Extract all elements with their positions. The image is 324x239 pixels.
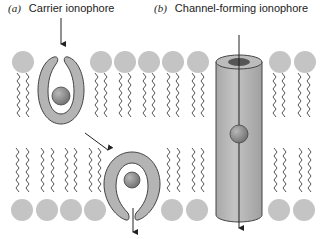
arrow-diagonal-icon (85, 133, 108, 150)
lipid-head (60, 199, 82, 221)
lipid-head (138, 51, 160, 73)
ion (230, 125, 248, 143)
lipid-head (187, 51, 209, 73)
membrane-diagram (0, 0, 324, 239)
lipid-head (84, 199, 106, 221)
lipid-head (114, 51, 136, 73)
ion (52, 87, 70, 105)
carrier-ionophore-lower (104, 152, 160, 232)
bottom-leaflet (11, 148, 315, 221)
lipid-head (269, 51, 291, 73)
lipid-head (90, 51, 112, 73)
lipid-head (268, 199, 290, 221)
lipid-head (186, 199, 208, 221)
ion (124, 172, 140, 188)
lipid-head (293, 199, 315, 221)
lipid-head (161, 199, 183, 221)
channel-ionophore (216, 35, 262, 228)
lipid-head (12, 51, 34, 73)
lipid-head (11, 199, 33, 221)
lipid-head (36, 199, 58, 221)
lipid-head (294, 51, 316, 73)
lipid-head (162, 51, 184, 73)
